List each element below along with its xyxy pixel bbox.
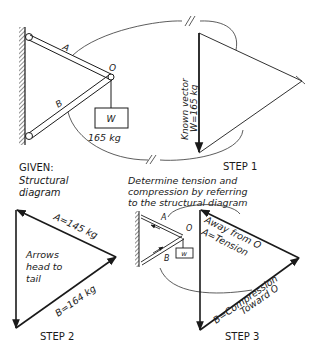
step1-caption: STEP 1 [223, 161, 257, 172]
truss-force-diagram: W 165 kg A B O Known vector W=165 kg STE… [0, 0, 323, 343]
vector-a-label: A=145 kg [51, 210, 99, 240]
given-caption-title: GIVEN: [19, 162, 54, 173]
mini-b-label: B [164, 254, 170, 263]
step2-caption: STEP 2 [40, 331, 74, 342]
step1-diagram: Known vector W=165 kg STEP 1 [180, 33, 305, 172]
pin-top [26, 34, 33, 41]
weight-value: 165 kg [88, 132, 121, 143]
given-caption: GIVEN: Structural diagram [19, 162, 69, 198]
pin-bottom [26, 133, 33, 140]
step3-caption: STEP 3 [225, 331, 259, 342]
mini-weight-label: w [181, 250, 187, 258]
line-of-action-a [199, 33, 302, 81]
mini-arrow-b [153, 247, 163, 253]
member-a-label: A [60, 41, 71, 53]
mini-a-label: A [160, 213, 166, 222]
instruction-line2: compression by referring [128, 186, 248, 197]
note-line1: Arrows [25, 249, 59, 260]
mini-o-label: O [186, 224, 192, 233]
given-caption-line2: diagram [19, 187, 61, 198]
wall-hatching [19, 27, 25, 145]
note-line2: head to [26, 261, 62, 272]
mini-wall-hatching [135, 211, 139, 267]
step3-diagram: Away from O A=Tension B=Compression Towa… [199, 210, 299, 342]
member-a [29, 35, 111, 79]
vector-b-label: B=164 kg [53, 283, 98, 319]
instruction-text: Determine tension and compression by ref… [128, 175, 248, 208]
joint-o-label: O [109, 63, 116, 73]
member-b [29, 75, 112, 138]
weight-label: W [107, 114, 117, 124]
step2-diagram: A=145 kg B=164 kg Arrows head to tail ST… [16, 210, 116, 342]
b-note-line1: B=Compression [211, 273, 280, 326]
line-of-action-b [199, 81, 302, 153]
member-b-label: B [54, 98, 65, 110]
given-caption-line1: Structural [19, 175, 69, 186]
instruction-line1: Determine tension and [128, 175, 238, 186]
known-vector-label-2: W=165 kg [189, 84, 199, 132]
given-structural-diagram: W 165 kg A B O [19, 27, 128, 145]
pin-joint-o [108, 74, 114, 80]
note-line3: tail [26, 273, 41, 284]
